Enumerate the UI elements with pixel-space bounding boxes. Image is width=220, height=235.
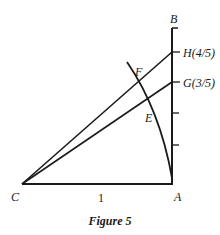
geometry-figure: B H(4/5) G(3/5) F E C A 1 Figure 5 bbox=[0, 0, 220, 235]
figure-caption: Figure 5 bbox=[87, 214, 131, 228]
label-c: C bbox=[11, 190, 20, 204]
label-g: G(3/5) bbox=[183, 76, 215, 90]
label-e: E bbox=[144, 111, 153, 125]
label-ca-length: 1 bbox=[98, 191, 104, 205]
label-b: B bbox=[170, 12, 178, 26]
label-a: A bbox=[173, 190, 182, 204]
label-h: H(4/5) bbox=[182, 46, 215, 60]
segment-cg bbox=[22, 82, 172, 184]
label-f: F bbox=[134, 65, 143, 79]
